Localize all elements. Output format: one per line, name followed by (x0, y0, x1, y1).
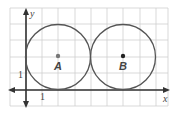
y-axis-up-arrow-icon (23, 8, 29, 15)
x-axis-label: x (162, 93, 168, 104)
point-b-label: B (119, 60, 127, 72)
grid (10, 8, 168, 106)
y-axis-down-arrow-icon (23, 101, 29, 108)
y-tick-label: 1 (18, 69, 23, 80)
center-point-a (56, 54, 60, 58)
point-a-label: A (53, 60, 62, 72)
y-axis-label: y (29, 8, 35, 19)
x-axis-left-arrow-icon (8, 87, 15, 93)
center-point-b (121, 54, 125, 58)
coordinate-plane: y x 1 1 A B (0, 0, 180, 115)
x-tick-label: 1 (40, 91, 45, 102)
